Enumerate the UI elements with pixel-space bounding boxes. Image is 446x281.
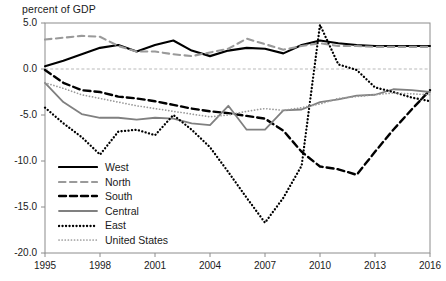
y-axis-tick-label: 0.0 [3, 63, 37, 74]
legend-item-north: North [58, 175, 168, 190]
y-axis-tick-label: -20.0 [3, 247, 37, 258]
y-axis-tick-label: -15.0 [3, 201, 37, 212]
y-axis-tick-label: 5.0 [3, 17, 37, 28]
series-line-north [45, 36, 430, 56]
x-axis-tick-label: 1995 [22, 260, 68, 271]
x-axis-tick-label: 2007 [242, 260, 288, 271]
x-axis-tick-label: 2004 [187, 260, 233, 271]
chart-legend: WestNorthSouthCentralEastUnited States [58, 160, 168, 248]
legend-label: Central [105, 206, 139, 217]
x-axis-tick-label: 2016 [407, 260, 446, 271]
legend-swatch-dotted [58, 220, 98, 232]
series-line-united-states [45, 83, 430, 117]
legend-item-west: West [58, 160, 168, 175]
legend-swatch-dashed [58, 190, 98, 202]
legend-label: United States [105, 235, 168, 246]
x-axis-tick-label: 1998 [77, 260, 123, 271]
series-line-central [45, 83, 430, 130]
legend-label: West [105, 162, 129, 173]
legend-item-east: East [58, 218, 168, 233]
legend-swatch-dotted [58, 234, 98, 246]
y-axis-tick-label: -10.0 [3, 155, 37, 166]
x-axis-tick-label: 2013 [352, 260, 398, 271]
legend-label: East [105, 220, 126, 231]
x-axis-tick-label: 2001 [132, 260, 178, 271]
legend-item-united-states: United States [58, 233, 168, 248]
legend-label: South [105, 191, 132, 202]
legend-label: North [105, 177, 131, 188]
y-axis-tick-label: -5.0 [3, 109, 37, 120]
legend-item-south: South [58, 189, 168, 204]
legend-swatch-dashed [58, 176, 98, 188]
legend-swatch-solid [58, 161, 98, 173]
x-axis-tick-label: 2010 [297, 260, 343, 271]
legend-swatch-solid [58, 205, 98, 217]
legend-item-central: Central [58, 204, 168, 219]
